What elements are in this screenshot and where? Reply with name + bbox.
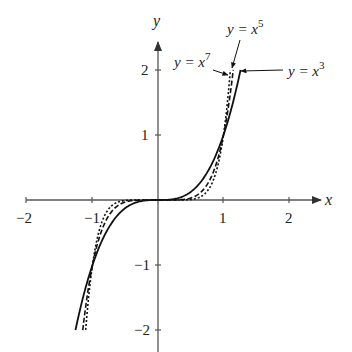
- annotation-x7: y = x7: [172, 50, 211, 70]
- x-tick-label: 2: [285, 210, 293, 226]
- annotation-x7-arrow: [213, 70, 228, 75]
- annotation-x3-arrow: [241, 70, 283, 71]
- y-axis-label: y: [151, 12, 161, 30]
- y-tick-label: −1: [134, 257, 150, 273]
- x-tick-label: 1: [219, 210, 227, 226]
- x-tick-label: −2: [16, 210, 32, 226]
- annotation-x3: y = x3: [286, 59, 325, 79]
- annotation-x3-base: y = x: [286, 63, 319, 79]
- annotation-x5-exp: 5: [258, 17, 264, 29]
- x-tick-label: −1: [84, 210, 100, 226]
- x-axis-label: x: [324, 191, 332, 208]
- y-tick-label: 1: [141, 127, 149, 143]
- annotation-x5-base: y = x: [225, 21, 258, 37]
- annotation-x7-exp: 7: [205, 50, 211, 62]
- annotation-x5: y = x5: [225, 17, 264, 37]
- power-functions-chart: x y −2 −1 1 2 2 1 −1 −2 y = x5 y = x7 y …: [0, 0, 352, 352]
- annotation-x5-arrow: [232, 40, 240, 68]
- y-tick-label: 2: [141, 62, 149, 78]
- y-tick-label: −2: [134, 322, 150, 338]
- annotation-x7-base: y = x: [172, 54, 205, 70]
- annotation-x3-exp: 3: [319, 59, 325, 71]
